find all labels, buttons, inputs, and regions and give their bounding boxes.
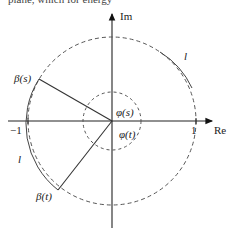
- im-label: Im: [120, 10, 133, 22]
- ray-beta-s: [39, 79, 112, 121]
- phi-t-label: φ(t): [119, 128, 136, 141]
- phi-s-label: φ(s): [116, 106, 134, 119]
- neg-one-label: −1: [10, 124, 22, 136]
- l-left-label: l: [18, 153, 21, 165]
- beta-t-label: β(t): [35, 190, 52, 203]
- arc-l-left: [26, 79, 58, 190]
- complex-plane-diagram: Im Re −1 1 β(s) β(t) φ(s) φ(t) l l: [0, 0, 231, 234]
- one-label: 1: [191, 124, 197, 136]
- re-label: Re: [214, 124, 226, 136]
- arc-l-upper: [160, 52, 192, 88]
- beta-s-label: β(s): [13, 72, 31, 85]
- l-upper-label: l: [184, 50, 187, 62]
